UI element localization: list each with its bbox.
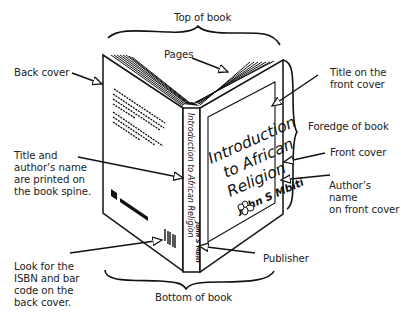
arrow-front-cover [284, 153, 325, 162]
label-back-cover: Back cover [14, 67, 69, 79]
label-author-front-cover: Author’s name on front cover [329, 180, 401, 216]
arrow-pages [192, 58, 228, 72]
label-title-front-cover: Title on the front cover [330, 67, 387, 91]
arrow-author-front [281, 175, 330, 180]
book-parts-diagram: Introduction to African Religion John S … [0, 0, 401, 318]
spine-title: Introduction to African Religion [186, 113, 195, 238]
top-brace [108, 26, 280, 45]
arrow-back-cover [72, 73, 102, 84]
label-isbn: Look for the ISBN and bar code on the ba… [14, 261, 79, 309]
label-bottom-of-book: Bottom of book [155, 292, 232, 304]
label-top-of-book: Top of book [174, 12, 231, 24]
label-publisher: Publisher [263, 253, 309, 265]
label-pages: Pages [164, 49, 193, 61]
label-spine: Title and author’s name are printed on t… [14, 150, 91, 198]
label-front-cover: Front cover [330, 147, 386, 159]
bottom-brace [105, 270, 274, 289]
label-foredge: Foredge of book [308, 121, 389, 133]
